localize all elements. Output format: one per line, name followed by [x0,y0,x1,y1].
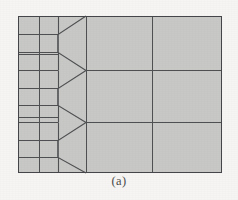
mesh-fill-group [18,16,222,173]
figure-container: (a) [0,0,238,200]
domain-fill [18,16,222,173]
figure-caption: (a) [0,174,238,189]
mesh-diagram [0,0,238,200]
